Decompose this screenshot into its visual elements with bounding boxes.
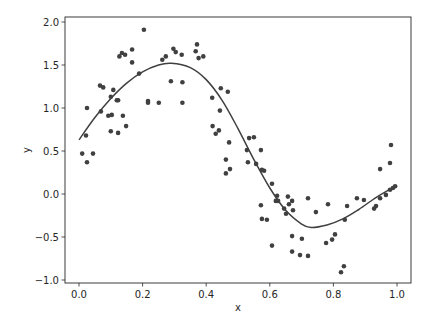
data-point [179,52,184,57]
data-point [123,52,128,57]
data-point [291,208,296,213]
data-point [99,109,104,114]
data-point [259,203,264,208]
data-point [362,198,367,203]
data-point [142,27,147,32]
data-point [227,140,232,145]
data-point [217,128,222,133]
data-point [300,236,305,241]
y-tick-label: 1.5 [43,60,59,71]
data-point [306,254,311,259]
data-point [85,106,90,111]
data-point [389,143,394,148]
data-point [314,210,319,215]
data-point [275,193,280,198]
data-point [290,249,295,254]
data-point [80,151,85,156]
data-point [173,50,178,55]
data-point [157,101,162,106]
data-point [306,196,311,201]
data-point [378,167,383,172]
y-tick-label: 2.0 [43,17,59,28]
x-axis-label: x [235,302,241,313]
data-point [110,113,115,118]
data-point [193,49,198,54]
data-point [130,47,135,52]
data-point [210,95,215,100]
data-point [180,101,185,106]
data-point [85,160,90,165]
data-point [111,88,116,93]
data-point [101,85,106,90]
data-point [169,79,174,84]
data-point [130,60,135,65]
data-point [384,193,389,198]
data-point [343,218,348,223]
data-point [254,162,259,167]
data-point [265,218,270,223]
data-point [270,181,275,186]
data-point [374,204,379,209]
data-point [160,58,165,63]
data-point [224,171,229,176]
data-point [201,54,206,59]
data-point [276,199,281,204]
data-point [286,194,291,199]
data-point [247,136,252,141]
data-point [164,54,169,59]
data-point [378,196,383,201]
data-point [284,212,289,217]
data-point [246,160,251,165]
data-point [228,167,233,172]
data-point [345,204,350,209]
data-point [121,113,126,118]
x-tick-label: 0.6 [262,289,278,300]
data-point [339,270,344,275]
y-tick-label: −1.0 [35,275,59,286]
data-point [91,151,96,156]
x-tick-label: 0.8 [325,289,341,300]
data-point [180,80,185,85]
data-point [290,199,295,204]
data-point [324,241,329,246]
data-point [218,108,223,113]
y-tick-label: 0.0 [43,189,59,200]
data-point [330,237,335,242]
data-point [245,148,250,153]
data-point [260,217,265,222]
data-point [226,89,231,94]
data-point [342,264,347,269]
data-point [109,95,114,100]
data-point [137,71,142,76]
data-point [196,56,201,61]
x-tick-label: 0.2 [135,289,151,300]
scatter-plot: 0.00.20.40.60.81.0 −1.0−0.50.00.51.01.52… [0,0,434,331]
data-point [355,196,360,201]
data-point [210,124,215,129]
x-tick-label: 0.4 [198,289,214,300]
data-point [393,184,398,189]
data-point [287,202,292,207]
y-tick-label: 1.0 [43,103,59,114]
data-point [116,98,121,103]
y-tick-label: 0.5 [43,146,59,157]
data-point [109,129,114,134]
data-point [326,202,331,207]
x-tick-label: 1.0 [389,289,405,300]
data-point [124,124,129,129]
data-point [262,169,267,174]
x-tick-label: 0.0 [71,289,87,300]
y-tick-label: −0.5 [35,232,59,243]
data-point [259,148,264,153]
data-point [270,243,275,248]
data-point [252,135,257,140]
data-point [146,101,151,106]
y-axis-label: y [21,147,32,153]
data-point [290,234,295,239]
data-point [219,86,224,91]
data-point [298,253,303,258]
data-point [84,133,89,138]
data-point [224,157,229,162]
data-point [213,132,218,137]
data-point [116,131,121,136]
